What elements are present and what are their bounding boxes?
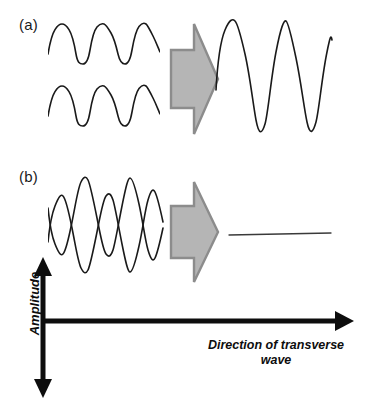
wave-b-top [48,177,163,260]
axes-group [14,255,359,400]
direction-axis-label: Direction of transverse wave [200,338,352,368]
amplitude-axis-label: Amplitude [27,259,42,349]
interference-figure: (a) (b) [0,0,365,407]
wave-a-top [48,18,160,70]
panel-label-a: (a) [19,16,38,33]
wave-a-result [214,16,334,138]
line-b-result [228,228,332,240]
panel-label-b: (b) [19,168,38,185]
wave-a-bottom [48,80,160,132]
direction-axis [43,311,354,331]
merge-arrow-a [168,22,220,136]
